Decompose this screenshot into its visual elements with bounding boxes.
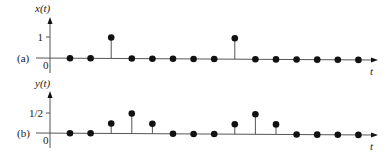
stem-marker <box>87 55 94 62</box>
stem-marker <box>293 131 300 138</box>
y-axis-arrow-icon <box>48 91 53 98</box>
x-axis-label: t <box>370 140 374 152</box>
stem-marker <box>67 55 74 62</box>
x-axis-label: t <box>370 65 374 77</box>
stem-marker <box>335 131 342 138</box>
stem-plot-b: y(t)1/20(b)t <box>17 77 378 152</box>
x-axis-arrow-icon <box>371 133 378 138</box>
panel-label: (b) <box>17 127 30 140</box>
stem-marker <box>252 111 259 118</box>
stem-marker <box>149 120 156 127</box>
stem-marker <box>190 56 197 63</box>
stem-marker <box>314 131 321 138</box>
stem-marker <box>314 56 321 63</box>
y-tick-label-zero: 0 <box>43 59 49 71</box>
y-tick-label-zero: 0 <box>43 134 49 146</box>
stem-marker <box>129 110 136 117</box>
stem-marker <box>108 34 115 41</box>
stem-marker <box>170 131 177 138</box>
stem-marker <box>232 121 239 128</box>
y-tick-label: 1/2 <box>29 107 43 119</box>
stem-marker <box>355 132 362 139</box>
stem-plot-a: x(t)10(a)t <box>17 2 378 77</box>
stem-marker <box>293 56 300 63</box>
stem-marker <box>252 56 259 63</box>
stem-marker <box>355 57 362 64</box>
x-axis <box>36 133 374 135</box>
x-axis-arrow-icon <box>371 58 378 63</box>
stem-marker <box>211 56 218 63</box>
y-axis-arrow-icon <box>48 17 53 24</box>
stem-marker <box>108 120 115 127</box>
stem-marker <box>335 56 342 63</box>
stem-marker <box>273 121 280 128</box>
stem-marker <box>190 131 197 138</box>
stem-marker <box>273 56 280 63</box>
y-axis-label: x(t) <box>34 2 51 15</box>
stem-marker <box>129 55 136 62</box>
stem-marker <box>211 131 218 138</box>
panel-label: (a) <box>17 52 30 65</box>
stem-marker <box>67 130 74 137</box>
stem-plots: x(t)10(a)ty(t)1/20(b)t <box>0 0 392 159</box>
y-axis-label: y(t) <box>34 77 51 90</box>
x-axis <box>36 58 374 60</box>
stem-marker <box>87 130 94 137</box>
stem-marker <box>170 56 177 63</box>
stem-marker <box>232 35 239 42</box>
y-tick-label: 1 <box>38 31 44 43</box>
stem-marker <box>149 55 156 62</box>
